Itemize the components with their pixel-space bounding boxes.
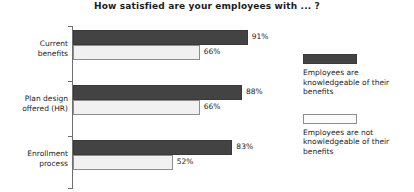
chart-title: How satisfied are your employees with ..… <box>0 1 414 11</box>
bar-value-label: 52% <box>177 157 194 167</box>
bar-series-1[interactable] <box>73 140 232 155</box>
bar-series-2[interactable] <box>73 45 200 60</box>
legend-label-line: benefits <box>303 147 407 157</box>
category-label: Current benefits <box>4 39 68 58</box>
legend-entry-series-1[interactable]: Employees are knowledgeable of their ben… <box>303 54 411 97</box>
bar-series-2[interactable] <box>73 155 173 170</box>
legend-label-line: knowledgeable of their <box>303 137 407 147</box>
axis-tick <box>68 136 72 137</box>
legend-label: Employees are knowledgeable of their ben… <box>303 68 407 97</box>
legend-label-line: Employees are <box>303 68 407 78</box>
category-label: Plan design offered (HR) <box>4 94 68 113</box>
axis-tick <box>68 26 72 27</box>
legend-swatch-icon <box>303 114 357 124</box>
bar-value-label: 91% <box>252 32 269 42</box>
bar-value-label: 66% <box>204 47 221 57</box>
legend-swatch-icon <box>303 54 357 64</box>
legend-entry-series-2[interactable]: Employees are not knowledgeable of their… <box>303 114 411 157</box>
legend-label-line: Employees are not <box>303 128 407 138</box>
category-label-line: Current <box>4 39 68 49</box>
category-label-line: benefits <box>4 49 68 59</box>
bar-series-1[interactable] <box>73 85 242 100</box>
category-label-line: process <box>4 159 68 169</box>
axis-tick <box>68 81 72 82</box>
bar-value-label: 83% <box>236 142 253 152</box>
axis-tick <box>68 188 72 189</box>
category-label-line: Enrollment <box>4 149 68 159</box>
legend-label-line: knowledgeable of their <box>303 78 407 88</box>
category-label-line: Plan design <box>4 94 68 104</box>
legend-label: Employees are not knowledgeable of their… <box>303 128 407 157</box>
chart-legend: Employees are knowledgeable of their ben… <box>303 54 411 173</box>
category-label-line: offered (HR) <box>4 104 68 114</box>
category-label: Enrollment process <box>4 149 68 168</box>
bar-series-1[interactable] <box>73 30 248 45</box>
bar-value-label: 66% <box>204 102 221 112</box>
plot-area: Current benefits 91% 66% Plan design off… <box>0 20 300 188</box>
bar-value-label: 88% <box>246 87 263 97</box>
legend-label-line: benefits <box>303 87 407 97</box>
bar-series-2[interactable] <box>73 100 200 115</box>
